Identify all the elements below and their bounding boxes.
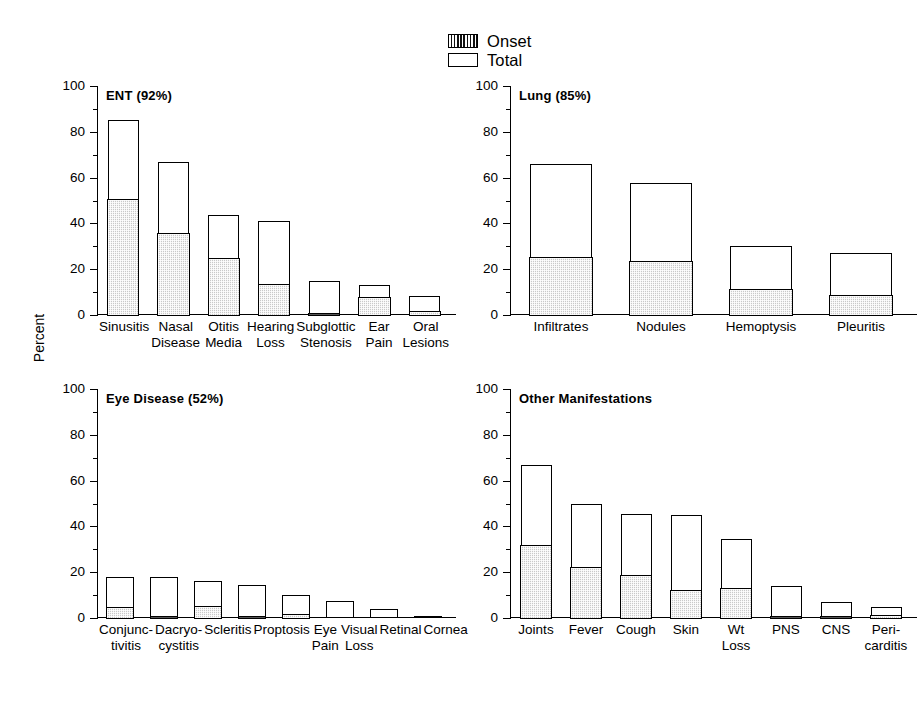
bar-slot: [611, 389, 661, 618]
x-tick-label: Otitis Media: [201, 319, 246, 350]
bar-slot: [811, 389, 861, 618]
bar-total: [258, 221, 289, 315]
bar-onset: [258, 284, 290, 316]
y-tick-label: 100: [62, 81, 85, 91]
bar-slot: [249, 86, 299, 315]
bar-total: [409, 296, 440, 315]
x-tick-label: Nodules: [611, 319, 711, 335]
legend-label-onset: Onset: [487, 33, 532, 49]
y-axis: 020406080100: [52, 389, 98, 628]
y-tick-major: [90, 223, 98, 224]
bar-group: [98, 86, 450, 315]
x-tick-label: Cornea: [422, 622, 468, 653]
bar-onset: [282, 614, 310, 619]
bar-onset: [358, 297, 390, 315]
bar-onset: [409, 311, 441, 316]
y-tick-label: 100: [62, 384, 85, 394]
bar-onset: [308, 313, 340, 315]
bar-slot: [142, 389, 186, 618]
x-tick-label: Hearing Loss: [246, 319, 295, 350]
bar-slot: [561, 389, 611, 618]
y-tick-major: [90, 435, 98, 436]
bar-onset: [150, 616, 178, 618]
bar-onset: [629, 261, 692, 316]
bar-slot: [611, 86, 711, 315]
x-tick-label: Visual Loss: [340, 622, 379, 653]
y-tick-major: [90, 526, 98, 527]
x-tick-label: Sinusitis: [98, 319, 150, 350]
y-tick-label: 60: [483, 173, 498, 183]
bar-total: [414, 616, 441, 618]
x-tick-label: Fever: [561, 622, 611, 653]
bar-slot: [318, 389, 362, 618]
bar-slot: [811, 86, 911, 315]
chart-panel-lung: 020406080100Lung (85%)InfiltratesNodules…: [465, 86, 915, 386]
bar-onset: [729, 289, 792, 315]
y-tick-label: 0: [490, 310, 498, 320]
x-tick-label: Peri- carditis: [861, 622, 911, 653]
y-tick-label: 60: [70, 173, 85, 183]
bar-slot: [362, 389, 406, 618]
x-tick-label: Nasal Disease: [150, 319, 201, 350]
y-tick-major: [90, 269, 98, 270]
y-tick-label: 40: [70, 218, 85, 228]
bar-total: [158, 162, 189, 315]
bar-total: [208, 215, 239, 315]
x-axis-labels: Conjunc- tivitisDacryo- cystitisScleriti…: [98, 622, 450, 653]
y-tick-major: [90, 572, 98, 573]
y-tick-major: [90, 618, 98, 619]
bar-total: [370, 609, 397, 618]
chart-panel-ent: 020406080100ENT (92%)SinusitisNasal Dise…: [52, 86, 452, 386]
legend-item-total: Total: [448, 50, 628, 69]
y-tick-major: [503, 132, 511, 133]
y-tick-major: [90, 315, 98, 316]
bar-total: [326, 601, 353, 618]
plot-area: Lung (85%): [511, 86, 911, 315]
x-tick-label: Pleuritis: [811, 319, 911, 335]
bar-slot: [199, 86, 249, 315]
bar-total: [830, 253, 892, 315]
x-tick-label: Dacryo- cystitis: [154, 622, 203, 653]
y-tick-major: [503, 572, 511, 573]
legend-label-total: Total: [487, 52, 522, 68]
bar-total: [630, 183, 692, 315]
bar-slot: [511, 86, 611, 315]
bar-total: [871, 607, 902, 618]
y-tick-major: [90, 178, 98, 179]
x-axis-labels: InfiltratesNodulesHemoptysisPleuritis: [511, 319, 911, 335]
y-tick-label: 20: [70, 264, 85, 274]
bar-slot: [861, 389, 911, 618]
bar-slot: [349, 86, 399, 315]
bar-onset: [529, 257, 592, 315]
bar-slot: [230, 389, 274, 618]
bar-total: [671, 515, 702, 618]
bar-onset: [157, 233, 189, 315]
chart-legend: Onset Total: [448, 31, 628, 69]
y-tick-label: 60: [70, 476, 85, 486]
y-tick-label: 80: [70, 430, 85, 440]
x-tick-label: Skin: [661, 622, 711, 653]
legend-item-onset: Onset: [448, 31, 628, 50]
y-tick-major: [503, 269, 511, 270]
bar-slot: [299, 86, 349, 315]
bar-onset: [820, 616, 852, 618]
x-tick-label: Oral Lesions: [401, 319, 450, 350]
y-axis-label: Percent: [31, 278, 47, 398]
bar-slot: [98, 86, 148, 315]
bar-total: [821, 602, 852, 618]
bar-slot: [661, 389, 711, 618]
x-tick-label: Eye Pain: [311, 622, 340, 653]
y-tick-label: 80: [483, 127, 498, 137]
x-tick-label: Hemoptysis: [711, 319, 811, 335]
y-tick-label: 80: [70, 127, 85, 137]
y-tick-label: 80: [483, 430, 498, 440]
y-tick-major: [90, 86, 98, 87]
bar-total: [309, 281, 340, 315]
y-tick-major: [503, 389, 511, 390]
bar-total: [359, 285, 390, 315]
bar-onset: [194, 606, 222, 619]
y-tick-label: 100: [475, 81, 498, 91]
bar-slot: [186, 389, 230, 618]
bar-total: [721, 539, 752, 618]
bar-total: [771, 586, 802, 618]
